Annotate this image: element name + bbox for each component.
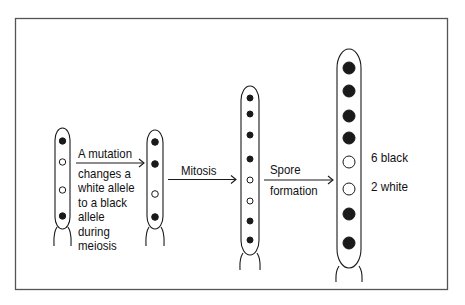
black-count-label: 6 black [371,150,409,165]
mutation-label-line-5: allele [78,210,105,225]
mutation-label-line-6: during [78,224,110,239]
black-spore [59,213,65,219]
mutation-label-line-7: meiosis [78,239,117,254]
white-spore [343,183,355,195]
black-spore [152,161,159,168]
white-spore [59,159,65,165]
mitosis-label-text: Mitosis [181,163,217,178]
mutation-label-line-4: to a black [78,195,128,210]
black-spore [247,132,253,138]
mutation-label: A mutation changes a white allele to a b… [77,146,135,253]
mitosis-label: Mitosis [181,163,217,178]
mutation-label-line-3: white allele [77,181,135,196]
black-spore [343,237,355,249]
spore-formation-label-line-1: Spore [270,162,301,177]
black-spore [343,132,355,144]
ascus-after-mitosis [240,86,260,270]
white-spore [247,177,253,183]
black-spore [247,111,253,117]
black-spore [152,139,159,146]
spore-formation-label-line-2: formation [270,183,318,198]
black-spore [247,156,253,162]
ascus-after-mutation [146,130,164,246]
black-spore [343,110,355,122]
mutation-label-line-1: A mutation [78,146,132,161]
black-spore [247,95,253,101]
white-spore [343,156,355,168]
white-spore [152,191,159,198]
black-spore [152,214,159,221]
gene-conversion-diagram: A mutation changes a white allele to a b… [0,0,465,305]
mutation-label-line-2: changes a [78,166,131,181]
black-spore [247,237,253,243]
ascus-stalk [54,227,71,246]
ascus-mature-ascus [336,49,362,282]
white-spore [247,198,253,204]
black-spore [247,218,253,224]
ascus-meiosis-products [54,128,71,246]
black-spore [343,62,355,74]
result-labels: 6 black 2 white [371,150,409,194]
black-spore [343,208,355,220]
ascus-stalk [146,227,164,246]
black-spore [343,85,355,97]
white-spore [59,187,65,193]
white-count-label: 2 white [371,179,408,194]
black-spore [59,138,65,144]
